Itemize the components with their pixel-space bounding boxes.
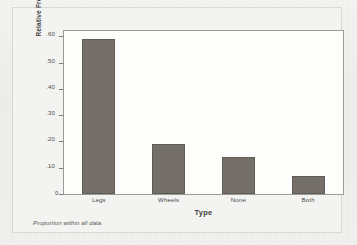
figure-card: Relative Frequency 0.10.20.30.40.50.60 0…	[12, 7, 342, 233]
x-tick-label-both: Both	[273, 197, 343, 203]
bar-both[interactable]	[292, 176, 325, 194]
y-tick-label: .30	[46, 110, 55, 116]
y-tick-label: .40	[46, 84, 55, 90]
bar-slot	[82, 31, 115, 194]
chart-screenshot: Relative Frequency 0.10.20.30.40.50.60 0…	[0, 0, 357, 245]
chart-footnote: Proportion within all data.	[33, 220, 103, 226]
y-axis: 0.10.20.30.40.50.60	[13, 30, 63, 195]
y-tick-label: .20	[46, 136, 55, 142]
y-tick-label: .10	[46, 163, 55, 169]
x-tick-label-wheels: Wheels	[134, 197, 204, 203]
y-axis-zero-label: 0	[55, 190, 58, 196]
x-tick-label-none: None	[204, 197, 274, 203]
x-tick-label-legs: Legs	[64, 197, 134, 203]
bar-legs[interactable]	[82, 39, 115, 194]
bar-slot	[292, 31, 325, 194]
y-tick-label: .50	[46, 58, 55, 64]
y-tick-label: .60	[46, 31, 55, 37]
bar-slot	[222, 31, 255, 194]
bar-slot	[152, 31, 185, 194]
plot-area	[64, 31, 343, 194]
x-axis-title: Type	[64, 208, 343, 217]
bar-wheels[interactable]	[152, 144, 185, 194]
bars-layer	[64, 31, 343, 194]
bar-none[interactable]	[222, 157, 255, 194]
